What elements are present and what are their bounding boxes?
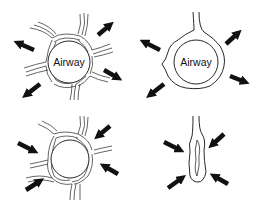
arrow-icon (144, 42, 160, 50)
arrow-icon (18, 43, 34, 50)
airway-label: Airway (53, 56, 85, 68)
arrow-icon (26, 181, 40, 190)
panel-bottom-right (164, 116, 228, 188)
collapsed-airway-lumen (195, 140, 199, 176)
arrow-icon (214, 176, 228, 184)
arrow-icon (226, 33, 238, 44)
airway-diagram: Airway Airway (0, 0, 262, 203)
arrow-icon (230, 76, 245, 82)
panel-top-left: Airway (18, 13, 118, 100)
airway-label: Airway (180, 56, 212, 68)
arrow-icon (18, 143, 34, 151)
arrow-icon (150, 84, 164, 95)
arrow-icon (168, 178, 182, 188)
arrow-icon (98, 126, 110, 136)
airway-lumen (51, 140, 89, 178)
arrow-icon (104, 166, 118, 174)
arrow-icon (212, 134, 224, 145)
collapsed-airway-wall (189, 116, 206, 182)
panel-bottom-left (18, 116, 118, 200)
arrow-icon (26, 84, 40, 95)
panel-top-right: Airway (144, 12, 245, 95)
arrow-icon (98, 25, 110, 35)
arrow-icon (164, 142, 180, 150)
